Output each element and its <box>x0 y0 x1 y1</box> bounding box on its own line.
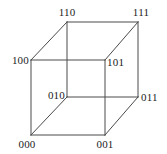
cube-edge-101-111 <box>105 22 138 60</box>
vertex-label-101: 101 <box>107 57 124 68</box>
cube-edge-group <box>31 22 138 135</box>
vertex-label-010: 010 <box>48 90 65 101</box>
cube-diagram-figure: 110111100101010011000001 <box>0 0 167 154</box>
vertex-label-011: 011 <box>141 92 158 103</box>
cube-edge-000-010 <box>31 97 67 135</box>
cube-edge-001-011 <box>105 97 138 135</box>
cube-edge-100-110 <box>31 22 67 60</box>
cube-edges-svg <box>0 0 167 154</box>
vertex-label-000: 000 <box>18 139 35 150</box>
vertex-label-110: 110 <box>59 7 76 18</box>
vertex-label-100: 100 <box>12 55 29 66</box>
vertex-label-001: 001 <box>96 139 113 150</box>
vertex-label-111: 111 <box>133 7 149 18</box>
